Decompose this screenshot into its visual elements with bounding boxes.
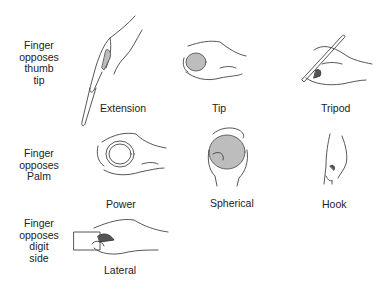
- grip-caption-spherical: Spherical: [210, 197, 254, 209]
- tripod-grip-hand-illustration: [292, 34, 372, 89]
- grip-caption-extension: Extension: [100, 102, 146, 114]
- spherical-grip-hand-illustration: [203, 126, 253, 188]
- power-grip-hand-illustration: [94, 130, 174, 180]
- grip-caption-hook: Hook: [322, 198, 347, 210]
- lateral-grip-hand-illustration: [74, 218, 170, 260]
- grip-caption-power: Power: [106, 198, 136, 210]
- grip-caption-tripod: Tripod: [321, 102, 350, 114]
- tip-grip-hand-illustration: [180, 38, 250, 88]
- label-line: digit: [12, 241, 66, 253]
- label-line: tip: [12, 75, 66, 87]
- extension-grip-hand-illustration: [80, 14, 150, 114]
- label-line: Palm: [12, 171, 66, 183]
- label-line: Finger: [12, 40, 66, 52]
- label-line: Finger: [12, 148, 66, 160]
- row-label-thumb-tip: Finger opposes thumb tip: [12, 40, 66, 86]
- label-line: side: [12, 253, 66, 265]
- grip-caption-tip: Tip: [212, 102, 226, 114]
- hook-grip-hand-illustration: [318, 132, 354, 188]
- grip-caption-lateral: Lateral: [104, 264, 136, 276]
- label-line: thumb: [12, 63, 66, 75]
- row-label-palm: Finger opposes Palm: [12, 148, 66, 183]
- row-label-digit-side: Finger opposes digit side: [12, 218, 66, 264]
- label-line: Finger: [12, 218, 66, 230]
